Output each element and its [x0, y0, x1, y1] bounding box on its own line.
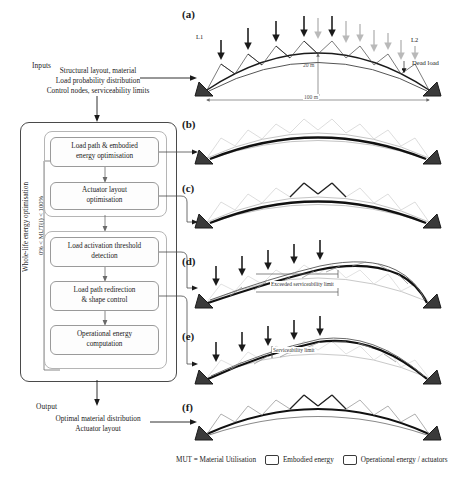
flow-box-load-path-embodied-line1: Load path & embodied: [71, 142, 137, 152]
panel-a-arch-diagram: [190, 8, 455, 108]
panel-a-load-right-label: L2: [411, 36, 418, 43]
arrow-redirection-to-operational: [100, 311, 110, 326]
flow-box-load-redirection[interactable]: Load path redirection & shape control: [50, 281, 159, 311]
whole-life-energy-optimisation-label: Whole-life energy optimisation: [22, 182, 30, 272]
arrow-flow-to-output: [92, 380, 102, 406]
flow-box-actuator-layout-line1: Actuator layout: [82, 186, 127, 196]
legend-embodied-label: Embodied energy: [283, 456, 334, 464]
panel-a-span-label: 100 m: [303, 94, 319, 100]
legend-mut-label: MUT = Material Utilisation: [176, 456, 256, 464]
legend-operational-swatch: [343, 455, 357, 465]
arrow-group1-to-group2: [100, 215, 110, 232]
panel-a-rise-label: 20 m: [303, 62, 314, 68]
flow-box-load-path-embodied-line2: energy optimisation: [71, 152, 137, 162]
flow-box-load-activation-line2: detection: [68, 252, 141, 262]
panel-b-arch-diagram: [190, 112, 455, 170]
flow-box-operational-energy[interactable]: Operational energy computation: [50, 325, 159, 355]
panel-a-load-left-label: L1: [196, 33, 203, 40]
legend-embodied: Embodied energy: [265, 455, 334, 465]
arrow-activation-to-redirection: [100, 267, 110, 282]
panel-e-arch-diagram: [190, 312, 455, 392]
panel-c-arch-diagram: [190, 176, 455, 234]
panel-d-arch-diagram: [190, 240, 455, 318]
legend: MUT = Material Utilisation Embodied ener…: [176, 455, 447, 465]
arrow-inputs-to-flow: [92, 96, 102, 122]
flow-box-operational-energy-line2: computation: [77, 340, 132, 350]
panel-d-serviceability-annotation: Exceeded serviceability limit: [270, 281, 335, 287]
panel-f-arch-diagram: [190, 388, 455, 446]
flow-box-load-activation-line1: Load activation threshold: [68, 242, 141, 252]
flow-box-load-path-embodied[interactable]: Load path & embodied energy optimisation: [50, 137, 159, 167]
arrow-embodied-to-actuator: [100, 167, 110, 183]
legend-operational-label: Operational energy / actuators: [361, 456, 448, 464]
flow-box-actuator-layout[interactable]: Actuator layout optimisation: [50, 182, 159, 210]
flow-box-load-activation[interactable]: Load activation threshold detection: [50, 237, 159, 267]
flow-box-actuator-layout-line2: optimisation: [82, 196, 127, 206]
legend-mut: MUT = Material Utilisation: [176, 456, 256, 464]
legend-embodied-swatch: [265, 455, 279, 465]
flow-box-load-redirection-line1: Load path redirection: [74, 286, 136, 296]
panel-a-dead-load-label: Dead load: [412, 59, 439, 66]
legend-operational: Operational energy / actuators: [343, 455, 448, 465]
panel-e-serviceability-annotation: Serviceability limit: [272, 347, 315, 353]
output-heading: Output: [36, 395, 57, 413]
flow-box-operational-energy-line1: Operational energy: [77, 330, 132, 340]
inputs-line-3: Control nodes, serviceability limits: [18, 86, 178, 96]
flow-box-load-redirection-line2: & shape control: [74, 296, 136, 306]
